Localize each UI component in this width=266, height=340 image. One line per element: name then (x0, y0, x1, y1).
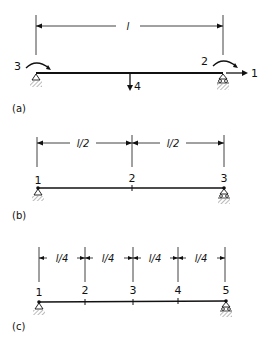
node-label: 5 (223, 284, 230, 297)
dof-label-1: 1 (251, 67, 258, 80)
segment-label: l/4 (149, 253, 162, 264)
dof-label-2: 2 (201, 55, 208, 68)
caption-a: (a) (12, 103, 26, 114)
node-label: 2 (82, 284, 89, 297)
beam-diagram: l 3 2 1 4 (a) (0, 0, 266, 340)
ground-hatch-icon (217, 84, 229, 90)
pin-support-icon (32, 74, 40, 80)
figure-b: l/2 l/2 1 2 3 (b) (12, 135, 230, 221)
figure-a: l 3 2 1 4 (a) (12, 15, 258, 114)
figure-c: l/4 l/4 l/4 l/4 1 2 3 4 5 (c) (12, 247, 232, 332)
rotation-arrow-icon (26, 63, 49, 68)
node-label: 4 (175, 284, 182, 297)
rotation-arrow-icon (213, 61, 236, 66)
span-label: l (127, 21, 130, 32)
roller-support-icon (219, 74, 227, 79)
node-label: 3 (221, 172, 228, 185)
caption-c: (c) (12, 321, 25, 332)
segment-label: l/2 (167, 138, 180, 149)
segment-label: l/2 (77, 138, 90, 149)
node-label: 2 (129, 172, 136, 185)
dof-label-4: 4 (134, 80, 141, 93)
node-label: 1 (35, 174, 42, 187)
ground-hatch-icon (30, 81, 42, 87)
pin-support-icon (34, 189, 42, 195)
arrowhead-icon (217, 24, 223, 29)
node-label: 1 (36, 286, 43, 299)
segment-label: l/4 (102, 253, 115, 264)
dof-label-3: 3 (14, 60, 21, 73)
node-label: 3 (130, 284, 137, 297)
segment-label: l/4 (195, 253, 208, 264)
pin-support-icon (35, 303, 43, 309)
segment-label: l/4 (56, 253, 69, 264)
caption-b: (b) (12, 210, 26, 221)
arrowhead-icon (36, 24, 42, 29)
